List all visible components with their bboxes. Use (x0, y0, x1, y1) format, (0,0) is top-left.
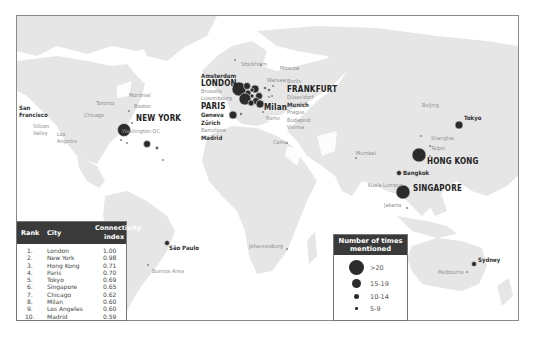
label-buenos-aires: Buenos Aires (152, 269, 184, 275)
table-row: 1.London1.00 (17, 247, 126, 254)
table-row: 10.Madrid0.59 (17, 313, 126, 320)
marker-bangkok (397, 171, 402, 176)
cell-city: Hong Kong (47, 262, 80, 269)
marker-sydney (472, 262, 477, 267)
label-los-angeles-line1: Los (57, 132, 65, 138)
cell-rank: 6. (27, 283, 33, 290)
label-bangkok: Bangkok (403, 170, 429, 176)
label-jakarta: Jakarta (384, 203, 401, 209)
cell-city: Los Angeles (47, 305, 83, 312)
label-melbourne: Melbourne (438, 270, 464, 276)
marker-hong-kong (412, 148, 426, 162)
cell-index: 0.65 (103, 283, 116, 290)
label-munich: Munich (287, 102, 309, 108)
table-row: 3.Hong Kong0.71 (17, 262, 126, 269)
legend-item-10-14: 10-14 (334, 291, 407, 303)
label-madrid: Madrid (201, 135, 222, 141)
table-row: 8.Milan0.60 (17, 298, 126, 305)
label-toronto: Toronto (96, 101, 114, 107)
legend-title-line1: Number of times (334, 237, 407, 245)
label-hong-kong: HONG KONG (427, 158, 479, 166)
header-index-line1: Connectivity (95, 224, 141, 232)
marker-amsterdam (244, 83, 251, 90)
label-cairo: Cairo (273, 140, 286, 146)
cell-city: New York (47, 254, 74, 261)
label-luxembourg: Luxembourg (201, 96, 232, 102)
marker-san-francisco (144, 141, 151, 148)
marker-jakarta (406, 207, 408, 209)
legend-item-15-19: 15-19 (334, 277, 407, 291)
header-city: City (47, 229, 61, 237)
legend-label: >20 (370, 264, 384, 272)
cell-city: Chicago (47, 291, 71, 298)
marker-boston (131, 122, 133, 124)
label-san-francisco-line2: Francisco (19, 112, 48, 118)
marker-warsaw (272, 85, 274, 87)
legend-circle-medium-icon (352, 279, 361, 288)
label-kuala-lumpur: Kuala Lumpur (368, 183, 402, 189)
size-legend: Number of times mentioned >20 15-19 10-1… (333, 234, 408, 321)
cell-rank: 7. (27, 291, 33, 298)
cell-index: 0.98 (103, 254, 116, 261)
marker-milan (256, 100, 264, 108)
label-new-york: NEW YORK (136, 115, 181, 123)
label-warsaw: Warsaw (267, 78, 286, 84)
cell-rank: 10. (25, 313, 35, 320)
cell-city: Singapore (47, 283, 77, 290)
label-brussels: Brussels (201, 89, 222, 95)
label-beijing: Beijing (422, 103, 439, 109)
cell-city: London (47, 247, 69, 254)
legend-label: 15-19 (370, 280, 389, 288)
label-stockholm: Stockholm (241, 62, 267, 68)
label-sydney: Sydney (478, 257, 500, 263)
table-row: 6.Singapore0.65 (17, 283, 126, 290)
marker-buenos-aires (147, 264, 149, 266)
cell-index: 0.69 (103, 276, 116, 283)
label-geneva: Geneva (201, 112, 224, 118)
table-row: 7.Chicago0.62 (17, 291, 126, 298)
label-budapest: Budapest (287, 118, 310, 124)
label-shanghai: Shanghai (431, 136, 454, 142)
marker-melbourne (466, 271, 468, 273)
label-paris: PARIS (201, 103, 226, 111)
label-milan: Milan (264, 104, 287, 112)
cell-index: 0.59 (103, 313, 116, 320)
label-london: LONDON (201, 80, 237, 88)
label-berlin: Berlin (287, 79, 301, 85)
cell-rank: 4. (27, 269, 33, 276)
marker-stockholm (234, 59, 236, 61)
marker-budapest (271, 95, 273, 97)
legend-label: 5-9 (370, 305, 381, 313)
label-silicon-valley-line1: Silicon (33, 124, 49, 130)
table-row: 5.Tokyo0.69 (17, 276, 126, 283)
header-rank: Rank (21, 229, 39, 237)
label-tokyo: Tokyo (464, 115, 481, 121)
marker-dusseldorf (250, 88, 254, 92)
legend-circle-tiny-icon (355, 307, 358, 310)
marker-beijing (420, 135, 422, 137)
table-body: 1.London1.002.New York0.983.Hong Kong0.7… (17, 244, 126, 320)
marker-toronto (126, 142, 128, 144)
label-chicago: Chicago (84, 113, 104, 119)
table-row: 9.Los Angeles0.60 (17, 305, 126, 312)
marker-mumbai (355, 157, 357, 159)
cell-index: 1.00 (103, 247, 116, 254)
marker-geneva (248, 100, 254, 106)
cell-rank: 2. (27, 254, 33, 261)
marker-washington-dc (120, 139, 122, 141)
marker-madrid (229, 111, 237, 119)
cell-rank: 8. (27, 298, 33, 305)
label-vienna: Vienna (287, 125, 304, 131)
cell-rank: 1. (27, 247, 33, 254)
marker-johannesburg (286, 248, 288, 250)
cell-city: Tokyo (47, 276, 64, 283)
legend-title: Number of times mentioned (334, 235, 407, 255)
marker-cairo (286, 142, 288, 144)
legend-circle-large-icon (349, 260, 364, 275)
label-dusseldorf: Düsseldorf (287, 95, 313, 101)
legend-label: 10-14 (370, 293, 389, 301)
table-header: Rank City Connectivity index (17, 222, 126, 244)
cell-index: 0.62 (103, 291, 116, 298)
marker-barcelona (240, 113, 242, 115)
marker-tokyo (455, 121, 463, 129)
